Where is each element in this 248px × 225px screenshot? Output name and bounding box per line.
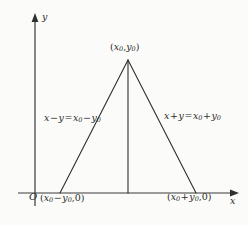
left-pt-close-paren: ) xyxy=(81,192,85,203)
left-eq-rhs-second-sub: 0 xyxy=(97,116,101,124)
y-axis xyxy=(32,13,39,206)
origin-label: O xyxy=(29,192,37,202)
line-right-edge xyxy=(128,60,196,193)
left-pt-op: − xyxy=(53,192,62,203)
right-eq-rhs-second-sub: 0 xyxy=(217,114,221,122)
right-pt-op: + xyxy=(180,191,189,202)
right-eq-equals: = xyxy=(184,110,193,121)
left-intercept-label: (x0−y0,0) xyxy=(40,193,85,203)
line-left-edge xyxy=(60,60,128,193)
left-eq-equals: = xyxy=(64,112,73,123)
right-pt-close-paren: ) xyxy=(208,191,212,202)
apex-close-paren: ) xyxy=(136,41,140,52)
apex-point-label: (x0,y0) xyxy=(110,42,139,52)
left-edge-equation-label: x−y=x0−y0 xyxy=(44,113,101,123)
y-axis-label: y xyxy=(42,12,47,22)
x-axis-label: x xyxy=(230,196,235,206)
geometry-figure: (x0,y0) x−y=x0−y0 x+y=x0+y0 O (x0−y0,0) … xyxy=(0,0,248,225)
right-edge-equation-label: x+y=x0+y0 xyxy=(164,111,221,121)
y-axis-arrow-icon xyxy=(32,13,39,22)
right-intercept-label: (x0+y0,0) xyxy=(167,192,212,202)
